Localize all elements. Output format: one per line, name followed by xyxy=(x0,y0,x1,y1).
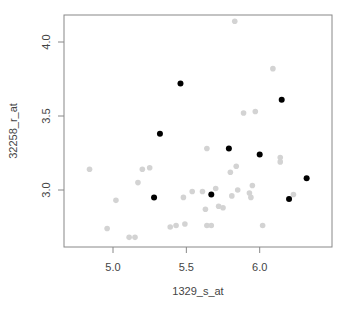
data-point xyxy=(250,183,256,189)
data-point xyxy=(173,223,179,229)
plot-frame xyxy=(64,15,332,247)
data-point xyxy=(252,109,258,115)
data-point xyxy=(167,224,173,230)
data-point xyxy=(232,18,238,24)
y-tick-label: 3.5 xyxy=(40,108,52,123)
data-point xyxy=(228,169,234,175)
data-point xyxy=(203,206,209,212)
data-point xyxy=(177,80,183,86)
data-point xyxy=(235,187,241,193)
data-point xyxy=(277,159,283,165)
data-point xyxy=(208,223,214,229)
data-point xyxy=(113,198,119,204)
data-point xyxy=(87,166,93,172)
data-point xyxy=(126,235,132,241)
data-point xyxy=(157,131,163,137)
data-point xyxy=(270,66,276,72)
data-point xyxy=(226,146,232,152)
y-tick-label: 3.0 xyxy=(40,182,52,197)
data-point xyxy=(140,166,146,172)
x-tick-label: 5.5 xyxy=(179,261,194,273)
data-point xyxy=(279,97,285,103)
points-other-series xyxy=(87,18,297,240)
data-point xyxy=(257,151,263,157)
data-point xyxy=(135,180,141,186)
data-point xyxy=(132,235,138,241)
x-tick-label: 6.0 xyxy=(252,261,267,273)
data-point xyxy=(260,223,266,229)
data-point xyxy=(200,189,206,195)
data-point xyxy=(220,205,226,211)
data-point xyxy=(213,186,219,192)
data-point xyxy=(181,195,187,201)
x-tick-label: 5.0 xyxy=(105,261,120,273)
x-axis-title: 1329_s_at xyxy=(172,285,223,297)
data-point xyxy=(241,110,247,116)
y-axis: 3.03.54.0 xyxy=(40,34,64,197)
data-point xyxy=(147,165,153,171)
data-point xyxy=(286,196,292,202)
scatter-plot: 5.05.56.0 3.03.54.0 1329_s_at 32258_r_at xyxy=(0,0,344,311)
data-point xyxy=(104,226,110,232)
data-point xyxy=(189,189,195,195)
y-tick-label: 4.0 xyxy=(40,34,52,49)
data-point xyxy=(233,164,239,170)
data-point xyxy=(229,193,235,199)
data-point xyxy=(248,195,254,201)
data-point xyxy=(151,194,157,200)
data-point xyxy=(204,146,210,152)
y-axis-title: 32258_r_at xyxy=(7,103,19,159)
data-point xyxy=(291,192,297,198)
data-point xyxy=(304,175,310,181)
data-point xyxy=(208,191,214,197)
points-highlighted-series xyxy=(151,80,310,201)
data-point xyxy=(182,221,188,227)
x-axis: 5.05.56.0 xyxy=(105,247,267,273)
